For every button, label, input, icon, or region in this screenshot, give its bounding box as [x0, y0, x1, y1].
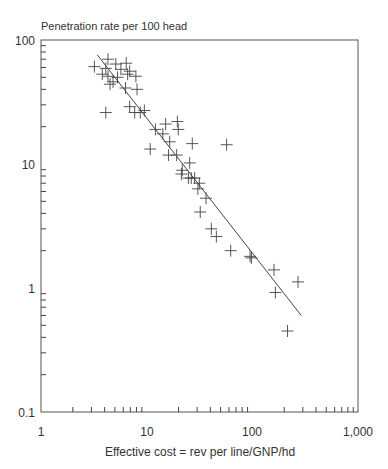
plus-marker: [120, 57, 132, 69]
plus-marker: [221, 139, 233, 151]
plus-marker: [102, 70, 114, 82]
plus-marker: [124, 65, 136, 77]
plus-marker: [244, 250, 256, 262]
plus-marker: [210, 231, 222, 243]
x-tick-1: 1: [38, 425, 45, 439]
plus-marker: [292, 276, 304, 288]
x-axis-ticks: [73, 407, 353, 412]
plus-marker: [171, 116, 183, 128]
plus-marker: [130, 70, 142, 82]
plus-marker: [282, 325, 294, 337]
plot-frame: [41, 40, 358, 412]
plus-marker: [164, 136, 176, 148]
plus-marker: [193, 177, 205, 189]
y-axis-ticks: [41, 46, 46, 412]
y-tick-10: 10: [22, 158, 36, 172]
plus-marker: [122, 68, 134, 80]
plus-marker: [88, 61, 100, 73]
plus-marker: [186, 138, 198, 150]
plus-marker: [225, 245, 237, 257]
plus-marker: [131, 83, 143, 95]
plus-marker: [200, 192, 212, 204]
x-tick-100: 100: [242, 425, 262, 439]
y-tick-0.1: 0.1: [18, 406, 35, 420]
plus-marker: [172, 123, 184, 135]
plus-marker: [119, 82, 131, 94]
chart-title: Penetration rate per 100 head: [41, 20, 187, 32]
scatter-chart: Penetration rate per 100 head 100 10 1 0…: [0, 0, 388, 469]
plus-marker: [194, 206, 206, 218]
plus-marker: [115, 63, 127, 75]
plus-marker: [104, 78, 116, 90]
y-tick-1: 1: [28, 282, 35, 296]
x-tick-10: 10: [140, 425, 154, 439]
x-tick-1000: 1,000: [343, 425, 373, 439]
plus-marker: [160, 118, 172, 130]
plus-marker: [192, 183, 204, 195]
plus-marker: [205, 223, 217, 235]
plus-marker: [268, 264, 280, 276]
plus-marker: [144, 143, 156, 155]
plus-marker: [124, 101, 136, 113]
plus-marker: [96, 68, 108, 80]
y-tick-100: 100: [15, 34, 35, 48]
plus-marker: [100, 107, 112, 119]
plus-marker: [245, 252, 257, 264]
x-axis-label: Effective cost = rev per line/GNP/hd: [105, 445, 295, 459]
data-points: [88, 53, 304, 337]
